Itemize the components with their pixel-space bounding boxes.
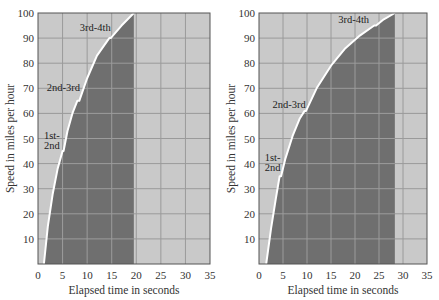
y-axis-label: Speed in miles per hour bbox=[225, 84, 238, 193]
x-tick-label: 30 bbox=[398, 269, 410, 281]
y-tick-label: 70 bbox=[23, 82, 35, 94]
y-tick-label: 100 bbox=[18, 7, 35, 19]
x-tick-label: 0 bbox=[256, 269, 262, 281]
y-tick-label: 40 bbox=[244, 158, 256, 170]
y-tick-label: 10 bbox=[244, 233, 256, 245]
x-tick-label: 35 bbox=[422, 269, 434, 281]
gear-shift-annotation: 2nd bbox=[44, 140, 61, 151]
charts-canvas: 10203040506070809010005101520253035Elaps… bbox=[0, 0, 439, 300]
right-chart: 10203040506070809010005101520253035Elaps… bbox=[225, 7, 433, 297]
x-axis-label: Elapsed time in seconds bbox=[69, 284, 180, 297]
left-chart: 10203040506070809010005101520253035Elaps… bbox=[4, 7, 216, 297]
x-tick-label: 25 bbox=[374, 269, 386, 281]
y-tick-label: 30 bbox=[23, 183, 35, 195]
y-tick-label: 100 bbox=[239, 7, 256, 19]
y-tick-label: 80 bbox=[244, 57, 256, 69]
x-tick-label: 10 bbox=[302, 269, 314, 281]
y-tick-label: 10 bbox=[23, 233, 35, 245]
y-tick-label: 50 bbox=[244, 133, 256, 145]
y-tick-label: 20 bbox=[23, 208, 35, 220]
x-axis-label: Elapsed time in seconds bbox=[288, 284, 399, 297]
y-axis-label: Speed in miles per hour bbox=[4, 84, 17, 193]
x-tick-label: 15 bbox=[106, 269, 118, 281]
y-tick-label: 70 bbox=[244, 82, 256, 94]
x-tick-label: 35 bbox=[205, 269, 217, 281]
x-tick-label: 20 bbox=[350, 269, 362, 281]
x-tick-label: 20 bbox=[131, 269, 143, 281]
y-tick-label: 40 bbox=[23, 158, 35, 170]
x-tick-label: 10 bbox=[82, 269, 94, 281]
y-tick-label: 20 bbox=[244, 208, 256, 220]
y-tick-label: 50 bbox=[23, 133, 35, 145]
y-tick-label: 80 bbox=[23, 57, 35, 69]
y-tick-label: 60 bbox=[244, 107, 256, 119]
gear-shift-annotation: 2nd-3rd bbox=[47, 82, 81, 93]
y-tick-label: 60 bbox=[23, 107, 35, 119]
x-tick-label: 25 bbox=[155, 269, 167, 281]
gear-shift-annotation: 3rd-4th bbox=[80, 22, 112, 33]
x-tick-label: 5 bbox=[60, 269, 66, 281]
x-tick-label: 15 bbox=[326, 269, 338, 281]
y-tick-label: 90 bbox=[244, 32, 256, 44]
gear-shift-annotation: 3rd-4th bbox=[338, 14, 370, 25]
gear-shift-annotation: 2nd-3rd bbox=[272, 99, 306, 110]
gear-shift-annotation: 2nd bbox=[265, 162, 282, 173]
x-tick-label: 30 bbox=[180, 269, 192, 281]
x-tick-label: 0 bbox=[35, 269, 41, 281]
y-tick-label: 30 bbox=[244, 183, 256, 195]
x-tick-label: 5 bbox=[280, 269, 286, 281]
y-tick-label: 90 bbox=[23, 32, 35, 44]
